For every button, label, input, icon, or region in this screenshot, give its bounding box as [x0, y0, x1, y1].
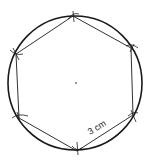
- center-point: [75, 82, 77, 84]
- circumscribed-circle: [8, 16, 142, 150]
- side-length-label: 3 cm: [86, 118, 108, 137]
- hexagon-diagram: 3 cm: [0, 0, 152, 166]
- hexagon: [16, 16, 133, 151]
